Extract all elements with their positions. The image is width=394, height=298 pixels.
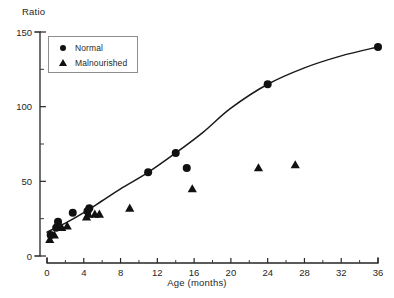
normal-trend-curve	[47, 47, 378, 232]
x-axis-title: Age (months)	[0, 277, 394, 288]
data-point-triangle	[291, 160, 300, 168]
legend-label-malnourished: Malnourished	[75, 58, 127, 68]
y-tick-label: 50	[21, 176, 32, 187]
data-point-circle	[54, 218, 62, 226]
y-tick-label: 100	[16, 101, 32, 112]
series-malnourished-points	[45, 160, 300, 243]
legend-item-malnourished: Malnourished	[57, 55, 137, 70]
y-tick-label: 150	[16, 27, 32, 38]
chart-legend: Normal Malnourished	[48, 36, 138, 73]
triangle-marker-icon	[57, 59, 69, 66]
y-axis-ticks	[40, 32, 46, 256]
trend-curve-group	[47, 47, 378, 232]
y-axis-tick-labels: 050100150	[16, 27, 32, 262]
y-axis-line	[35, 32, 40, 256]
data-point-circle	[374, 43, 382, 51]
data-point-circle	[264, 80, 272, 88]
legend-label-normal: Normal	[75, 43, 103, 53]
data-point-circle	[183, 164, 191, 172]
x-axis-ticks	[47, 258, 378, 263]
data-point-triangle	[188, 184, 197, 192]
data-point-triangle	[254, 163, 263, 171]
legend-item-normal: Normal	[57, 40, 137, 55]
circle-marker-icon	[57, 45, 69, 51]
data-point-triangle	[63, 222, 72, 230]
chart-figure: Ratio 050100150 04812162024283236 Normal…	[0, 0, 394, 298]
data-point-circle	[69, 209, 77, 217]
y-tick-label: 0	[27, 251, 32, 262]
data-point-circle	[85, 204, 93, 212]
data-point-circle	[144, 168, 152, 176]
data-point-triangle	[125, 204, 134, 212]
data-point-circle	[172, 149, 180, 157]
